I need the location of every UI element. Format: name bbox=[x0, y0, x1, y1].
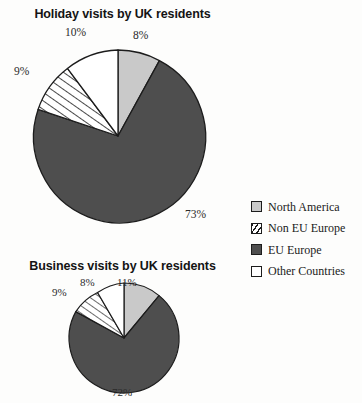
legend-swatch-eu-europe-icon bbox=[251, 244, 262, 255]
legend-swatch-non-eu-europe-icon bbox=[251, 223, 262, 234]
holiday-label-eu-europe: 73% bbox=[185, 208, 206, 220]
holiday-chart-title: Holiday visits by UK residents bbox=[0, 7, 245, 21]
legend-label-eu-europe: EU Europe bbox=[268, 244, 322, 256]
business-label-other-countries: 8% bbox=[80, 276, 95, 288]
business-label-eu-europe: 72% bbox=[112, 386, 132, 398]
legend-item-eu-europe[interactable]: EU Europe bbox=[251, 239, 362, 261]
holiday-label-non-eu-europe: 9% bbox=[14, 65, 29, 77]
business-label-non-eu-europe: 9% bbox=[52, 286, 67, 298]
legend-label-non-eu-europe: Non EU Europe bbox=[268, 222, 345, 234]
holiday-label-other-countries: 10% bbox=[65, 26, 86, 38]
business-label-north-america: 11% bbox=[117, 276, 137, 288]
holiday-label-north-america: 8% bbox=[133, 29, 148, 41]
legend-label-north-america: North America bbox=[268, 201, 340, 213]
chart-canvas: Holiday visits by UK residents 8% 73% 9%… bbox=[0, 0, 362, 403]
legend-item-north-america[interactable]: North America bbox=[251, 196, 362, 218]
legend-swatch-other-countries-icon bbox=[251, 266, 262, 277]
business-pie-svg bbox=[48, 276, 208, 401]
business-pie-chart bbox=[48, 276, 208, 401]
legend-item-other-countries[interactable]: Other Countries bbox=[251, 261, 362, 283]
business-chart-title: Business visits by UK residents bbox=[0, 259, 245, 273]
legend-swatch-north-america-icon bbox=[251, 201, 262, 212]
chart-legend: North America Non EU Europe EU Europe Ot… bbox=[251, 196, 362, 282]
holiday-pie-chart bbox=[18, 24, 236, 234]
legend-label-other-countries: Other Countries bbox=[268, 265, 345, 277]
holiday-pie-svg bbox=[18, 24, 236, 234]
legend-item-non-eu-europe[interactable]: Non EU Europe bbox=[251, 218, 362, 240]
